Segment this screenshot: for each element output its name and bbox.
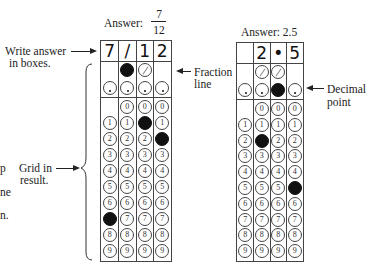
left-digit-bubble-8[interactable]: 8 <box>155 228 169 242</box>
right-digit-bubble-5[interactable]: 5 <box>255 181 269 195</box>
left-decimal-bubble[interactable] <box>103 81 117 95</box>
left-digit-bubble-0[interactable]: 0 <box>155 100 169 114</box>
right-digit-bubble-4[interactable]: 4 <box>288 165 302 179</box>
right-digit-bubble-8[interactable]: 8 <box>255 228 269 242</box>
left-digit-bubble-0[interactable]: 0 <box>120 100 134 114</box>
right-digit-bubble-1[interactable]: 1 <box>288 118 302 132</box>
right-decimal-bubble[interactable] <box>255 83 269 97</box>
left-digit-bubble-3[interactable]: 3 <box>120 148 134 162</box>
left-digit-bubble-1[interactable] <box>138 116 152 130</box>
left-digit-bubble-6[interactable]: 6 <box>120 196 134 210</box>
fraction-bar <box>151 21 166 22</box>
right-answer-box-1[interactable] <box>237 43 254 63</box>
left-digit-bubble-2[interactable]: 2 <box>103 132 117 146</box>
left-digit-bubble-9[interactable]: 9 <box>120 244 134 258</box>
right-digit-bubble-2[interactable]: 2 <box>238 134 252 148</box>
left-digit-bubble-1[interactable]: 1 <box>103 116 117 130</box>
left-digit-bubble-5[interactable]: 5 <box>120 180 134 194</box>
right-digit-bubble-4[interactable]: 4 <box>255 165 269 179</box>
left-digit-bubble-4[interactable]: 4 <box>103 164 117 178</box>
right-digit-bubble-1[interactable]: 1 <box>238 118 252 132</box>
right-digit-bubble-6[interactable]: 6 <box>238 197 252 211</box>
left-digit-bubble-4[interactable]: 4 <box>120 164 134 178</box>
right-digit-bubble-7[interactable]: 7 <box>238 213 252 227</box>
left-digit-bubble-3[interactable]: 3 <box>138 148 152 162</box>
right-digit-bubble-9[interactable]: 9 <box>271 244 285 258</box>
right-digit-bubble-4[interactable]: 4 <box>271 165 285 179</box>
right-digit-bubble-3[interactable]: 3 <box>288 149 302 163</box>
right-answer-box-2[interactable]: 2 <box>254 43 271 63</box>
right-digit-bubble-2[interactable]: 2 <box>271 134 285 148</box>
right-digit-bubble-3[interactable]: 3 <box>271 149 285 163</box>
left-decimal-bubble[interactable] <box>120 81 134 95</box>
right-digit-bubble-5[interactable]: 5 <box>271 181 285 195</box>
right-answer-box-4[interactable]: 5 <box>287 43 304 63</box>
right-digit-bubble-8[interactable]: 8 <box>271 228 285 242</box>
right-fraction-bubble[interactable] <box>255 65 269 79</box>
left-answer-grid: 7/12000111222333344445555666677788889999 <box>100 40 172 262</box>
left-digit-bubble-4[interactable]: 4 <box>138 164 152 178</box>
left-digit-bubble-6[interactable]: 6 <box>155 196 169 210</box>
left-digit-bubble-2[interactable]: 2 <box>120 132 134 146</box>
left-digit-bubble-1[interactable]: 1 <box>155 116 169 130</box>
left-digit-bubble-7[interactable]: 7 <box>138 212 152 226</box>
right-digit-bubble-9[interactable]: 9 <box>238 244 252 258</box>
left-digit-bubble-7[interactable]: 7 <box>120 212 134 226</box>
right-answer-box-3[interactable]: • <box>270 43 287 63</box>
right-digit-bubble-8[interactable]: 8 <box>288 228 302 242</box>
right-digit-bubble-5[interactable] <box>288 181 302 195</box>
left-decimal-bubble[interactable] <box>155 81 169 95</box>
right-digit-bubble-3[interactable]: 3 <box>238 149 252 163</box>
left-digit-bubble-6[interactable]: 6 <box>138 196 152 210</box>
right-digit-bubble-2[interactable] <box>255 134 269 148</box>
left-digit-bubble-9[interactable]: 9 <box>155 244 169 258</box>
left-answer-box-4[interactable]: 2 <box>154 41 172 61</box>
left-digit-bubble-5[interactable]: 5 <box>155 180 169 194</box>
left-digit-bubble-3[interactable]: 3 <box>103 148 117 162</box>
left-digit-bubble-8[interactable]: 8 <box>103 228 117 242</box>
left-digit-bubble-9[interactable]: 9 <box>138 244 152 258</box>
left-digit-bubble-3[interactable]: 3 <box>155 148 169 162</box>
right-digit-bubble-3[interactable]: 3 <box>255 149 269 163</box>
left-digit-bubble-1[interactable]: 1 <box>120 116 134 130</box>
right-digit-bubble-7[interactable]: 7 <box>255 213 269 227</box>
left-digit-bubble-7[interactable] <box>103 212 117 226</box>
right-decimal-bubble[interactable] <box>271 83 285 97</box>
right-decimal-bubble[interactable] <box>238 83 252 97</box>
left-digit-bubble-6[interactable]: 6 <box>103 196 117 210</box>
left-digit-bubble-0[interactable]: 0 <box>138 100 152 114</box>
right-digit-bubble-0[interactable]: 0 <box>288 102 302 116</box>
right-digit-bubble-8[interactable]: 8 <box>238 228 252 242</box>
right-digit-bubble-6[interactable]: 6 <box>255 197 269 211</box>
right-digit-bubble-4[interactable]: 4 <box>238 165 252 179</box>
right-digit-bubble-5[interactable]: 5 <box>238 181 252 195</box>
right-digit-bubble-1[interactable]: 1 <box>271 118 285 132</box>
right-digit-bubble-7[interactable]: 7 <box>271 213 285 227</box>
left-digit-bubble-5[interactable]: 5 <box>103 180 117 194</box>
right-digit-bubble-1[interactable]: 1 <box>255 118 269 132</box>
left-digit-bubble-8[interactable]: 8 <box>138 228 152 242</box>
right-digit-bubble-6[interactable]: 6 <box>288 197 302 211</box>
right-digit-bubble-9[interactable]: 9 <box>255 244 269 258</box>
right-digit-bubble-0[interactable]: 0 <box>271 102 285 116</box>
left-fraction-bubble[interactable] <box>120 63 134 77</box>
left-digit-bubble-5[interactable]: 5 <box>138 180 152 194</box>
left-fraction-bubble[interactable] <box>138 63 152 77</box>
right-digit-bubble-6[interactable]: 6 <box>271 197 285 211</box>
right-decimal-bubble[interactable] <box>288 83 302 97</box>
left-digit-bubble-2[interactable]: 2 <box>138 132 152 146</box>
right-fraction-bubble[interactable] <box>271 65 285 79</box>
right-digit-bubble-7[interactable]: 7 <box>288 213 302 227</box>
left-answer-box-2[interactable]: / <box>119 41 137 61</box>
left-digit-bubble-8[interactable]: 8 <box>120 228 134 242</box>
left-answer-box-3[interactable]: 1 <box>136 41 154 61</box>
left-answer-box-1[interactable]: 7 <box>101 41 119 61</box>
right-digit-bubble-2[interactable]: 2 <box>288 134 302 148</box>
right-digit-bubble-0[interactable]: 0 <box>255 102 269 116</box>
left-digit-bubble-2[interactable] <box>155 132 169 146</box>
left-decimal-bubble[interactable] <box>138 81 152 95</box>
left-digit-bubble-7[interactable]: 7 <box>155 212 169 226</box>
left-digit-bubble-9[interactable]: 9 <box>103 244 117 258</box>
left-digit-bubble-4[interactable]: 4 <box>155 164 169 178</box>
right-digit-bubble-9[interactable]: 9 <box>288 244 302 258</box>
